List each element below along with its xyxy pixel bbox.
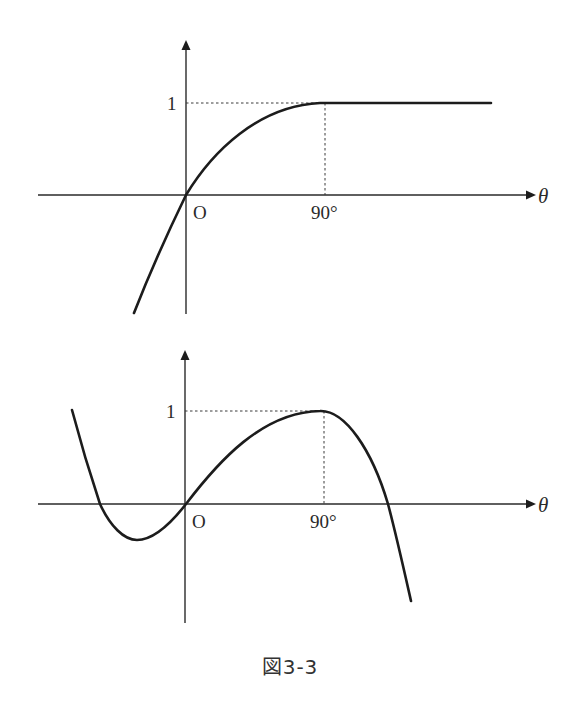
bottom-curve	[72, 410, 411, 601]
top-y-axis-arrow-icon	[182, 40, 191, 50]
figure-caption: 図3-3	[0, 651, 580, 680]
bottom-origin-label: O	[192, 511, 206, 532]
bottom-x-tick-label: 90°	[310, 511, 337, 532]
top-x-tick-label: 90°	[311, 202, 338, 223]
figure-canvas: 1 O 90° θ 1 O 90° θ	[0, 0, 580, 705]
bottom-y-axis-arrow-icon	[181, 350, 190, 360]
top-graph: 1 O 90° θ	[38, 40, 548, 314]
bottom-x-axis-arrow-icon	[526, 500, 536, 509]
bottom-graph: 1 O 90° θ	[38, 350, 548, 623]
top-origin-label: O	[193, 202, 207, 223]
top-y-tick-label: 1	[167, 93, 177, 114]
top-x-axis-arrow-icon	[526, 191, 536, 200]
top-x-axis-label: θ	[538, 184, 548, 208]
bottom-y-tick-label: 1	[166, 401, 176, 422]
bottom-x-axis-label: θ	[538, 493, 548, 517]
